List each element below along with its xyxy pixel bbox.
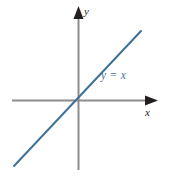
x-axis-label: x [145,107,150,118]
coordinate-plane-svg [0,0,169,178]
y-axis-label: y [84,6,89,17]
y-axis-arrowhead-icon [74,6,84,19]
x-axis-arrowhead-icon [145,96,158,106]
equation-label: y = x [101,70,126,82]
graph-figure: y x y = x [0,0,169,178]
